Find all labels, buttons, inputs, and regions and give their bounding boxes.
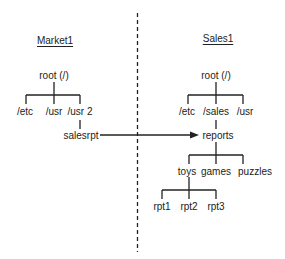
- sales1-node-games: games: [201, 166, 231, 177]
- market1-node-etc: /etc: [17, 106, 33, 117]
- arrowhead-icon: [190, 132, 199, 139]
- sales1-title: Sales1: [203, 33, 234, 44]
- market1-root-node: root (/): [39, 70, 68, 81]
- sales1-node-sales: /sales: [203, 106, 229, 117]
- sales1-node-etc: /etc: [179, 106, 195, 117]
- sales1-node-puzzles: puzzles: [238, 166, 272, 177]
- sales1-node-toys: toys: [178, 166, 196, 177]
- market1-node-usr: /usr: [46, 106, 63, 117]
- market1-node-usr2: /usr 2: [67, 106, 92, 117]
- market1-node-salesrpt: salesrpt: [63, 130, 98, 141]
- sales1-root-node: root (/): [201, 70, 230, 81]
- sales1-node-rpt3: rpt3: [207, 201, 224, 212]
- sales1-node-reports: reports: [202, 130, 233, 141]
- sales1-node-rpt1: rpt1: [153, 201, 170, 212]
- mount-arrow: [100, 132, 199, 139]
- sales1-node-rpt2: rpt2: [180, 201, 197, 212]
- sales1-node-usr: /usr: [237, 106, 254, 117]
- market1-title: Market1: [37, 35, 73, 46]
